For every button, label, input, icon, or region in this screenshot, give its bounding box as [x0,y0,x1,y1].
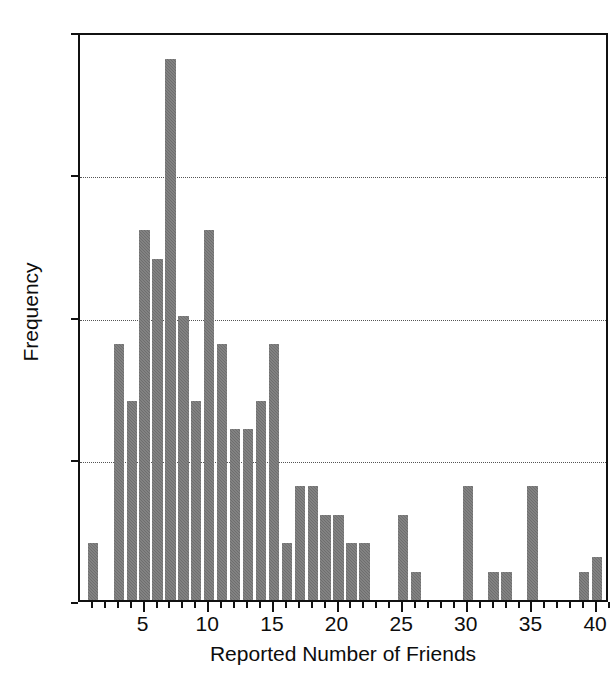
bar [178,316,188,601]
bar [527,486,537,600]
x-tick-minor-32 [492,602,494,608]
x-tick-major-10 [207,602,209,612]
y-tick-mark-20 [71,33,78,35]
x-tick-label-25: 25 [389,612,412,636]
x-tick-minor-18 [311,602,313,608]
bar [320,515,330,600]
x-axis-label: Reported Number of Friends [78,642,608,666]
bar [217,344,227,600]
x-tick-minor-39 [582,602,584,608]
bar [88,543,98,600]
x-tick-minor-2 [104,602,106,608]
x-tick-minor-13 [246,602,248,608]
bar [463,486,473,600]
x-tick-minor-29 [453,602,455,608]
bar [127,401,137,600]
x-tick-minor-8 [181,602,183,608]
x-tick-major-30 [466,602,468,612]
bar [308,486,318,600]
x-tick-minor-24 [388,602,390,608]
y-tick-mark-0 [71,602,78,604]
x-tick-minor-23 [375,602,377,608]
bar [243,429,253,600]
x-tick-label-40: 40 [583,612,606,636]
x-tick-major-15 [272,602,274,612]
bar [346,543,356,600]
x-tick-minor-9 [194,602,196,608]
bar [114,344,124,600]
x-tick-minor-26 [414,602,416,608]
x-tick-minor-3 [117,602,119,608]
bar [501,572,511,600]
x-tick-minor-31 [479,602,481,608]
y-tick-mark-15 [71,175,78,177]
x-tick-major-40 [595,602,597,612]
x-tick-minor-22 [362,602,364,608]
bar [411,572,421,600]
bars-layer [80,35,606,600]
bar [282,543,292,600]
bar [359,543,369,600]
x-tick-minor-1 [91,602,93,608]
bar [592,557,602,600]
bar [191,401,201,600]
x-tick-minor-6 [156,602,158,608]
x-tick-minor-11 [220,602,222,608]
x-tick-major-25 [401,602,403,612]
bar [398,515,408,600]
bar [139,230,149,600]
x-tick-minor-4 [130,602,132,608]
x-tick-minor-37 [556,602,558,608]
x-tick-minor-33 [505,602,507,608]
bar [295,486,305,600]
bar [269,344,279,600]
histogram-chart: Frequency 05101520 510152025303540 Repor… [0,0,616,673]
x-tick-label-20: 20 [325,612,348,636]
x-tick-minor-7 [168,602,170,608]
x-tick-minor-16 [285,602,287,608]
x-tick-major-20 [337,602,339,612]
x-tick-minor-38 [569,602,571,608]
x-tick-label-30: 30 [454,612,477,636]
bar [165,59,175,600]
y-tick-mark-10 [71,318,78,320]
x-tick-minor-28 [440,602,442,608]
x-tick-minor-27 [427,602,429,608]
plot-area [78,33,608,602]
bar [152,259,162,600]
x-tick-minor-21 [349,602,351,608]
bar [333,515,343,600]
y-axis-label: Frequency [19,217,43,407]
x-tick-minor-12 [233,602,235,608]
x-tick-minor-14 [259,602,261,608]
x-tick-label-15: 15 [260,612,283,636]
bar [230,429,240,600]
x-tick-minor-19 [324,602,326,608]
x-tick-minor-17 [298,602,300,608]
bar [256,401,266,600]
x-tick-minor-34 [518,602,520,608]
x-tick-major-35 [530,602,532,612]
x-tick-major-5 [143,602,145,612]
x-tick-label-5: 5 [137,612,149,636]
x-tick-label-35: 35 [519,612,542,636]
x-tick-minor-41 [608,602,610,608]
bar [204,230,214,600]
y-tick-mark-5 [71,460,78,462]
bar [488,572,498,600]
bar [579,572,589,600]
x-tick-minor-36 [543,602,545,608]
x-tick-label-10: 10 [196,612,219,636]
